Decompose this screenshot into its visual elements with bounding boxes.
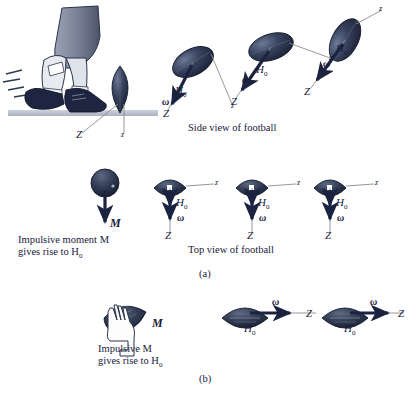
side-football-1-omega-label: ω [162,96,169,107]
top-football-3-omega-label: ω [337,212,344,223]
side-football-2 [236,28,330,98]
kick-z-label: z [121,130,124,139]
spiral-football-1-omega-label: ω [272,296,279,307]
spiral-football-1 [222,308,316,328]
kick-scene [3,6,158,133]
top-football-3-Z-label: Z [325,229,331,241]
side-football-3-Z-label: Z [304,85,310,97]
top-football-2-omega-label: ω [259,212,266,223]
side-football-3-omega-label: ω [323,58,330,69]
top-football-3-H-label: H0 [336,196,347,211]
caption-impulsive-moment-line1: Impulsive moment M [18,234,109,245]
spiral-football-2-omega-label: ω [370,296,377,307]
spiral-football-2-Z-label: Z [398,307,404,319]
caption-impulsive-moment-text2: gives rise to H [18,246,79,257]
top-football-1-z-label: z [215,178,218,187]
side-football-3-H-label: H0 [336,42,347,57]
caption-impulsive-sub: 0 [159,361,163,369]
side-football-2-H-label: H0 [256,63,267,78]
caption-impulsive-moment-text1: Impulsive moment M [18,234,109,245]
side-football-1 [167,40,232,110]
top-football-2-H-label: H0 [258,196,269,211]
label-part-a: (a) [199,268,211,279]
spiral-football-1-H-label: H0 [244,322,255,337]
top-football-2-z-label: z [297,178,300,187]
side-football-3-z-label: z [379,4,382,13]
label-part-b: (b) [199,373,211,384]
top-football-1-H-label: H0 [176,196,187,211]
side-football-2-Z-label: Z [231,95,237,107]
football-gyroscopic-figure [0,0,409,405]
side-football-1-H-label: H0 [175,84,186,99]
caption-side-view: Side view of football [188,122,276,133]
caption-impulsive-moment-sub: 0 [79,252,83,260]
spiral-football-2 [322,308,404,328]
caption-impulsive-text1: Impulsive M [98,343,152,354]
hand-football-M-label: M [152,316,163,331]
top-sphere-M-label: M [110,216,121,231]
spiral-football-1-Z-label: Z [306,307,312,319]
top-football-3-z-label: z [375,178,378,187]
kick-Z-label: Z [76,128,82,140]
caption-top-view: Top view of football [188,244,274,255]
top-football-2-Z-label: Z [247,229,253,241]
side-football-1-Z-label: Z [163,107,169,119]
top-sphere-moment [91,169,119,222]
top-football-1-omega-label: ω [177,212,184,223]
top-football-1-Z-label: Z [165,229,171,241]
caption-impulsive-moment-line2: gives rise to H0 [18,246,82,260]
caption-impulsive-line2: gives rise to H0 [98,355,162,369]
motion-lines-icon [3,70,26,97]
caption-impulsive-line1: Impulsive M [98,343,152,354]
side-football-2-omega-label: ω [242,74,249,85]
spiral-football-2-H-label: H0 [344,322,355,337]
caption-impulsive-text2: gives rise to H [98,355,159,366]
front-boot [65,88,107,112]
